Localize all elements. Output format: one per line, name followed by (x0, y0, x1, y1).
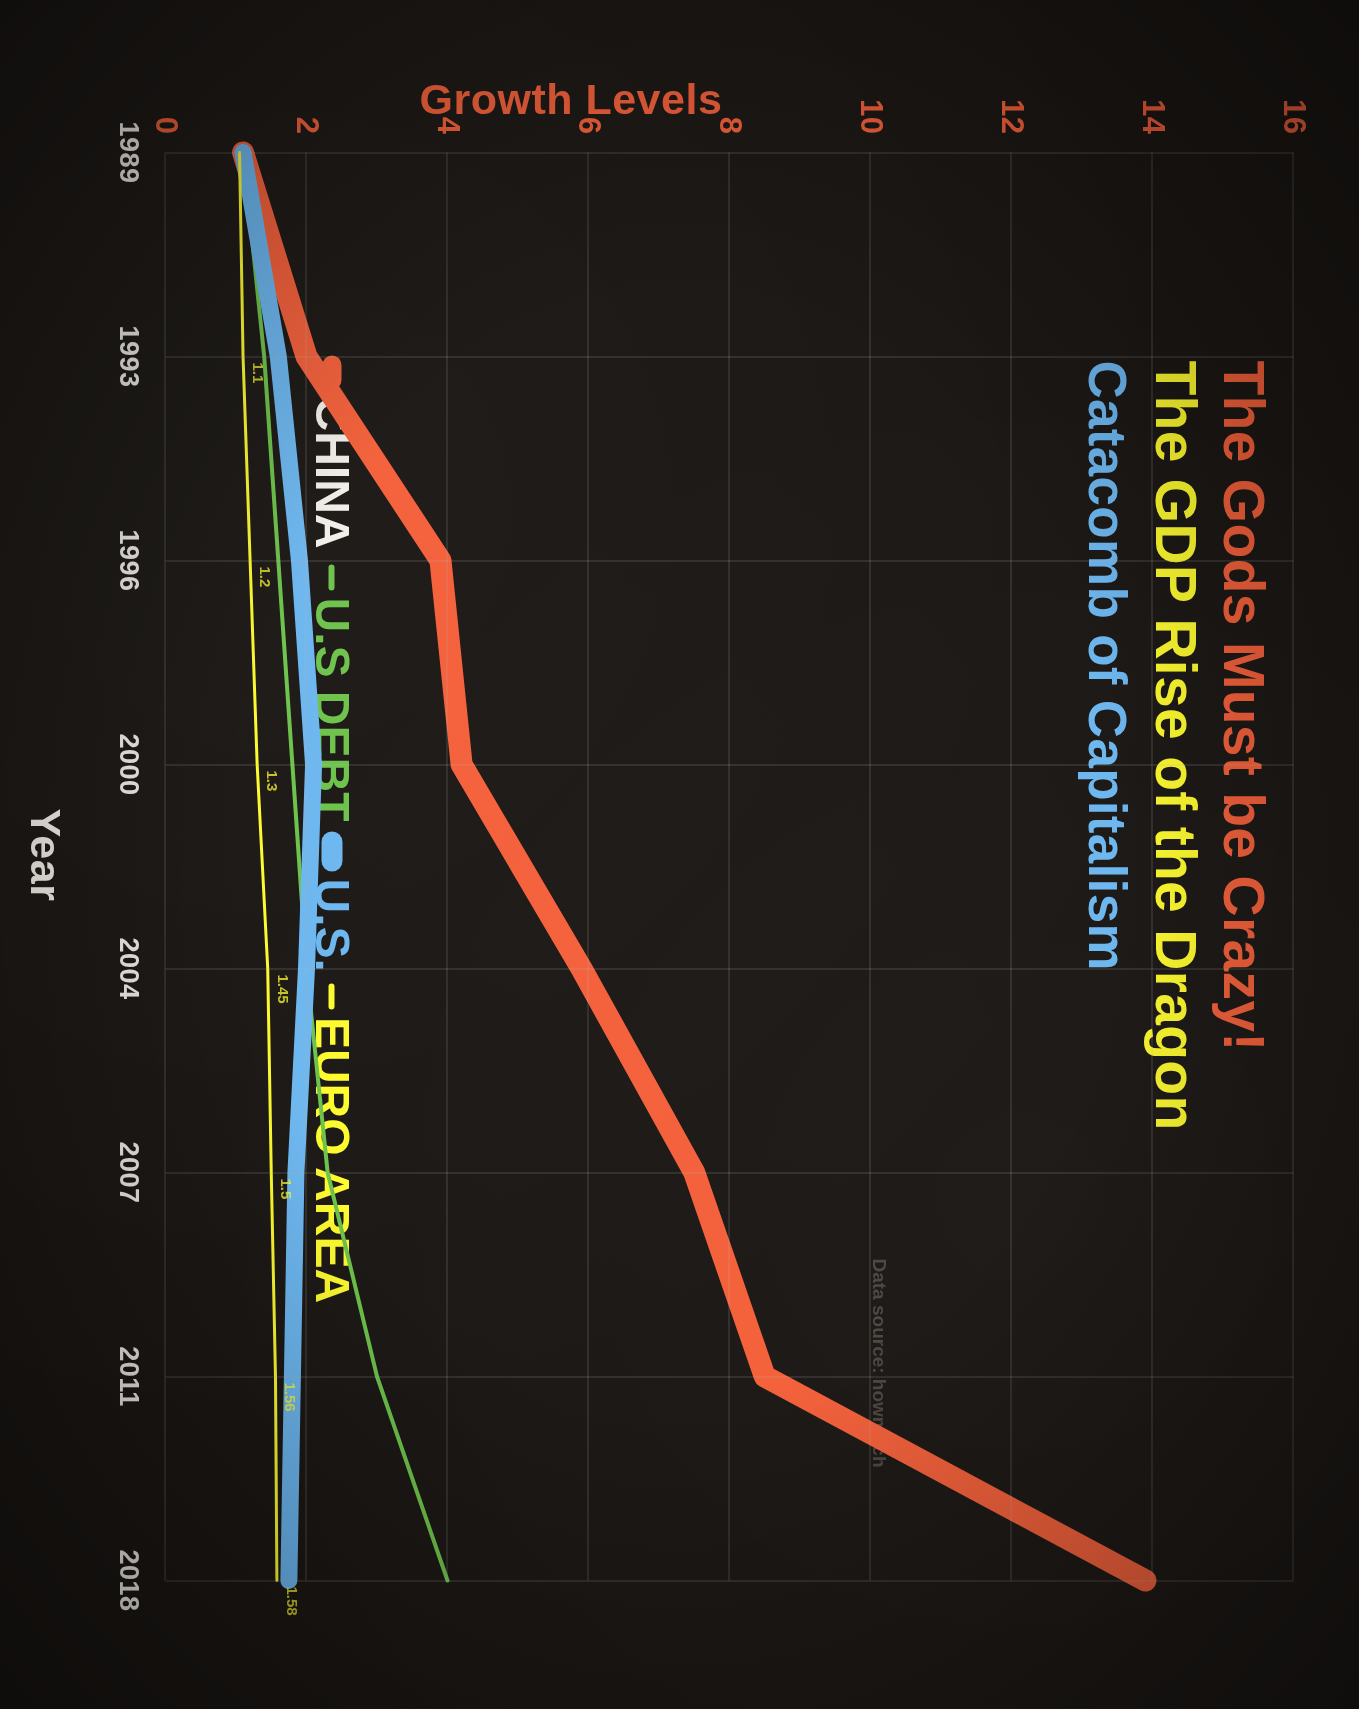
x-tick-label: 2004 (112, 908, 143, 1028)
y-tick-label: 8 (711, 4, 747, 134)
plot-area: 1.581.561.51.451.31.21.1 (165, 152, 1293, 1580)
y-tick-label: 12 (993, 4, 1029, 134)
y-tick-label: 2 (288, 4, 324, 134)
gridline-vertical (165, 968, 1293, 969)
gridline-horizontal (164, 152, 165, 1580)
point-label: 1.2 (257, 566, 274, 587)
gridline-vertical (165, 152, 1293, 153)
y-tick-label: 6 (570, 4, 606, 134)
gridline-vertical (165, 560, 1293, 561)
y-tick-label: 10 (852, 4, 888, 134)
x-tick-label: 1989 (112, 92, 143, 212)
gridline-vertical (165, 1376, 1293, 1377)
gridline-vertical (165, 764, 1293, 765)
y-tick-label: 0 (147, 4, 183, 134)
rotated-chart-frame: The Gods Must be Crazy! The GDP Rise of … (0, 0, 1359, 1709)
point-label: 1.45 (274, 974, 291, 1003)
x-tick-label: 2011 (112, 1316, 143, 1436)
gridline-horizontal (728, 152, 729, 1580)
point-label: 1.5 (278, 1178, 295, 1199)
x-tick-label: 2018 (112, 1520, 143, 1640)
x-tick-label: 1996 (112, 500, 143, 620)
point-label: 1.1 (250, 362, 267, 383)
gridline-vertical (165, 356, 1293, 357)
gridline-horizontal (305, 152, 306, 1580)
y-tick-label: 14 (1134, 4, 1170, 134)
chart-stage: The Gods Must be Crazy! The GDP Rise of … (0, 0, 1359, 1709)
point-label: 1.3 (264, 770, 281, 791)
y-tick-label: 4 (429, 4, 465, 134)
point-label: 1.56 (282, 1382, 299, 1411)
point-label: 1.58 (283, 1586, 300, 1615)
x-tick-label: 2000 (112, 704, 143, 824)
gridline-horizontal (1292, 152, 1293, 1580)
gridline-horizontal (869, 152, 870, 1580)
gridline-horizontal (587, 152, 588, 1580)
x-tick-label: 1993 (112, 296, 143, 416)
gridline-vertical (165, 1172, 1293, 1173)
gridline-vertical (165, 1580, 1293, 1581)
gridline-horizontal (1151, 152, 1152, 1580)
y-tick-label: 16 (1275, 4, 1311, 134)
gridline-horizontal (446, 152, 447, 1580)
x-tick-label: 2007 (112, 1112, 143, 1232)
gridline-horizontal (1010, 152, 1011, 1580)
x-axis-title: Year (20, 0, 69, 1709)
